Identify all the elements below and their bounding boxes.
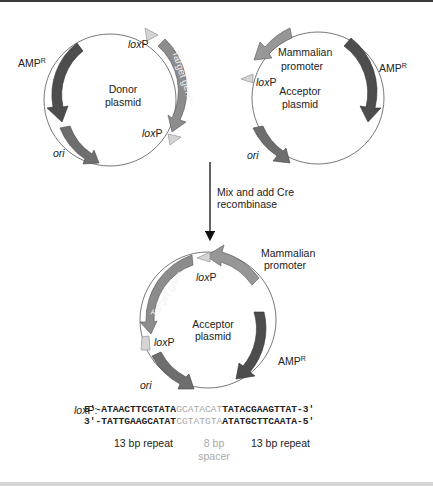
acceptor-title-line1: Acceptor <box>279 85 321 97</box>
donor-ori-label: ori <box>53 147 65 159</box>
acceptor-loxp-icon <box>241 74 253 83</box>
spacer-caption-line1: 8 bp <box>204 437 225 449</box>
product-loxp-left-icon <box>141 336 150 350</box>
right-repeat-caption: 13 bp repeat <box>251 437 310 449</box>
acceptor-promoter-line2: promoter <box>281 60 324 72</box>
product-loxp-left-label: loxP <box>154 336 174 348</box>
acceptor-amp-segment <box>344 38 381 122</box>
product-amp-segment <box>236 312 266 379</box>
product-promoter-line2: promoter <box>264 259 307 271</box>
product-plasmid: Target gene Mammalian promoter loxP loxP… <box>140 245 315 391</box>
donor-plasmid: Target gene AMPR ori loxP loxP Donor pla… <box>18 28 197 166</box>
acceptor-ori-label: ori <box>247 149 259 161</box>
left-repeat-caption: 13 bp repeat <box>114 437 173 449</box>
donor-title-line1: Donor <box>109 83 138 95</box>
donor-loxp-bottom-icon <box>168 134 181 145</box>
acceptor-plasmid: Mammalian promoter loxP Acceptor plasmid… <box>241 28 407 164</box>
donor-amp-label: AMPR <box>18 57 46 69</box>
acceptor-amp-label: AMPR <box>379 62 407 74</box>
loxp-bottom-strand: 3'-TATTGAAGCATATCGTATGTAATATGCTTCAATA-5' <box>84 416 314 427</box>
product-amp-label: AMPR <box>278 355 306 367</box>
donor-amp-segment <box>47 43 83 122</box>
product-ori-label: ori <box>140 379 152 391</box>
donor-title-line2: plasmid <box>105 96 141 108</box>
recombination-step: Mix and add Cre recombinase <box>210 162 294 236</box>
loxp-top-strand: 5'-ATAACTTCGTATAGCATACATTATACGAAGTTAT-3' <box>84 404 314 415</box>
acceptor-title-line2: plasmid <box>282 98 318 110</box>
step-line2: recombinase <box>217 198 277 210</box>
bottom-border <box>0 482 433 486</box>
product-title-line2: plasmid <box>195 330 231 342</box>
product-ori-segment <box>152 352 194 389</box>
step-line1: Mix and add Cre <box>217 186 294 198</box>
product-loxp-top-icon <box>197 252 210 262</box>
product-promoter-line1: Mammalian <box>261 247 315 259</box>
product-title-line1: Acceptor <box>192 318 234 330</box>
spacer-caption-line2: spacer <box>198 450 230 462</box>
loxp-sequence: loxP: 5'-ATAACTTCGTATAGCATACATTATACGAAGT… <box>74 404 314 462</box>
donor-loxp-bottom-label: loxP <box>142 127 162 139</box>
acceptor-loxp-label: loxP <box>256 76 276 88</box>
acceptor-promoter-line1: Mammalian <box>278 46 332 58</box>
cre-lox-diagram: Target gene AMPR ori loxP loxP Donor pla… <box>0 0 433 486</box>
donor-loxp-top-label: loxP <box>128 38 148 50</box>
product-loxp-top-label: loxP <box>196 271 216 283</box>
